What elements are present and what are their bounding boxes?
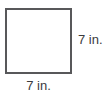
geometry-figure: 7 in. 7 in. [0,0,105,100]
right-side-length-label: 7 in. [78,33,103,47]
square-shape [5,8,72,74]
bottom-side-length-label: 7 in. [5,79,72,93]
